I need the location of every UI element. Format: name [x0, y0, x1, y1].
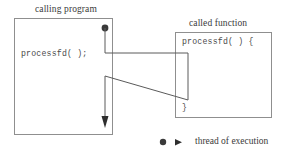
thread-of-execution-overlay	[0, 0, 291, 158]
legend-label: thread of execution	[195, 136, 268, 146]
thread-end-arrowhead-icon	[102, 116, 109, 128]
legend-dot-icon	[160, 139, 166, 145]
diagram-canvas: calling program processfd( ); called fun…	[0, 0, 291, 158]
legend-arrowhead-icon	[175, 139, 182, 146]
call-path-line	[105, 28, 188, 100]
return-path-line	[105, 76, 188, 117]
